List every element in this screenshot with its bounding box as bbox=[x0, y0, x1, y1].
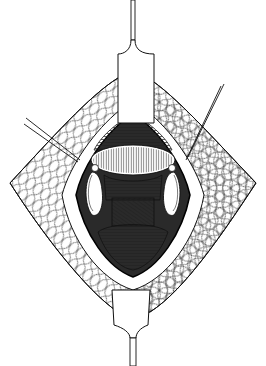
illustration-svg bbox=[0, 0, 266, 366]
left-nodule bbox=[92, 165, 99, 172]
right-nodule bbox=[169, 165, 176, 172]
lower-structure bbox=[112, 198, 154, 226]
lower-retractor bbox=[112, 290, 150, 366]
upper-retractor bbox=[118, 0, 154, 123]
surgical-illustration bbox=[0, 0, 266, 366]
